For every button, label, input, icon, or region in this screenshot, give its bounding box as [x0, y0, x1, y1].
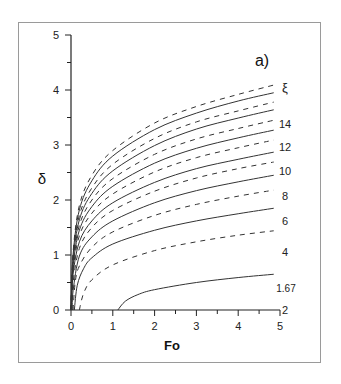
curve-5	[73, 190, 274, 310]
curve-6	[72, 175, 273, 310]
axes: 012345012345	[53, 29, 283, 332]
curve-label: 2	[282, 304, 288, 316]
y-tick-label: 3	[53, 139, 59, 151]
legend-title: ξ	[282, 80, 288, 95]
curve-9	[71, 140, 273, 310]
curve-13	[71, 102, 274, 310]
x-axis-title: Fo	[164, 338, 180, 353]
x-tick-label: 3	[193, 320, 199, 332]
chart-plot: 012345012345 Foδa)ξ14121086421.67	[0, 0, 341, 384]
y-tick-label: 0	[53, 304, 59, 316]
y-tick-label: 2	[53, 194, 59, 206]
y-tick-label: 1	[53, 249, 59, 261]
curve-label: 12	[279, 141, 291, 153]
curve-7	[72, 162, 274, 310]
x-tick-label: 0	[68, 320, 74, 332]
curve-12	[71, 110, 274, 310]
curve-label: 4	[282, 246, 288, 258]
curve-label: 10	[279, 165, 291, 177]
y-tick-label: 4	[53, 84, 59, 96]
y-axis-title: δ	[38, 170, 46, 187]
y-tick-label: 5	[53, 29, 59, 41]
curve-2	[118, 274, 274, 310]
curve-10	[71, 130, 274, 310]
curve-label: 14	[279, 118, 291, 130]
curve-4	[74, 208, 273, 310]
x-tick-label: 4	[235, 320, 241, 332]
x-tick-label: 2	[152, 320, 158, 332]
curve-label: 8	[282, 190, 288, 202]
x-tick-label: 1	[110, 320, 116, 332]
curve-label: 1.67	[276, 283, 296, 294]
curve-11	[71, 120, 274, 310]
curves	[71, 85, 274, 310]
curve-3	[79, 231, 273, 310]
curve-label: 6	[282, 215, 288, 227]
panel-label: a)	[255, 52, 269, 69]
labels: Foδa)ξ14121086421.67	[38, 52, 296, 353]
x-tick-label: 5	[277, 320, 283, 332]
